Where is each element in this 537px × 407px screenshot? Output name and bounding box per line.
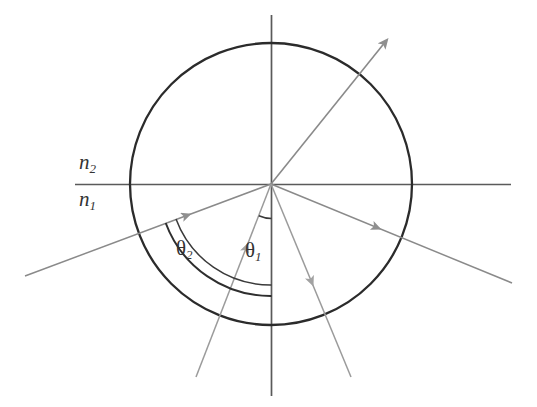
label-theta1-base: θ bbox=[245, 238, 255, 262]
label-theta2-base: θ bbox=[176, 236, 186, 260]
label-n2-base: n bbox=[79, 150, 90, 174]
label-theta2-subscript: 2 bbox=[186, 247, 193, 262]
label-n1-base: n bbox=[79, 187, 90, 211]
label-n1-subscript: 1 bbox=[90, 198, 97, 213]
label-n2-subscript: 2 bbox=[90, 161, 97, 176]
angle-arc-theta1 bbox=[259, 216, 272, 219]
label-theta2: θ2 bbox=[176, 236, 193, 263]
refracted-ray-upper-right-segment bbox=[271, 41, 386, 184]
label-n2: n2 bbox=[79, 150, 96, 177]
outgoing-ray-lower-right-segment bbox=[271, 184, 351, 377]
undeviated-transmitted-ray-segment bbox=[271, 184, 512, 283]
label-n1: n1 bbox=[79, 187, 96, 214]
label-theta1: θ1 bbox=[245, 238, 262, 265]
label-theta1-subscript: 1 bbox=[255, 249, 262, 264]
incident-ray-segment bbox=[25, 184, 271, 276]
incoming-ray-lower-left-segment bbox=[196, 184, 271, 377]
optics-refraction-figure: n2 n1 θ2 θ1 bbox=[0, 0, 537, 407]
